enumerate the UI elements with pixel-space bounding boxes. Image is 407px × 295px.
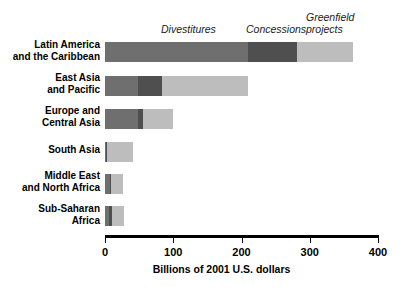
x-axis-title: Billions of 2001 U.S. dollars (0, 263, 407, 275)
bar-row (0, 174, 407, 194)
bar-segment-greenfield (107, 142, 133, 162)
x-tick-label: 100 (164, 246, 182, 258)
bar-segment-divestitures (105, 42, 248, 62)
x-tick-mark (310, 235, 311, 243)
x-tick-label: 300 (301, 246, 319, 258)
bar-row (0, 76, 407, 96)
bar-row (0, 142, 407, 162)
x-tick-label: 0 (102, 246, 108, 258)
x-tick-mark (105, 235, 106, 243)
x-tick-mark (242, 235, 243, 243)
bar-segment-greenfield (297, 42, 352, 62)
bar-segment-divestitures (105, 109, 138, 129)
bar-row (0, 206, 407, 226)
x-tick-mark (378, 235, 379, 243)
bar-segment-greenfield (143, 109, 174, 129)
bar-row (0, 109, 407, 129)
bar-segment-concessions (138, 76, 162, 96)
bar-row (0, 42, 407, 62)
plot-area: Latin America and the Caribbean East Asi… (0, 0, 407, 240)
bar-segment-concessions (248, 42, 297, 62)
x-tick-label: 200 (232, 246, 250, 258)
bar-segment-greenfield (111, 174, 123, 194)
x-tick-mark (173, 235, 174, 243)
bar-segment-greenfield (112, 206, 124, 226)
bar-segment-greenfield (162, 76, 248, 96)
chart-container: Divestitures Concessions Greenfield proj… (0, 0, 407, 295)
bar-segment-divestitures (105, 76, 138, 96)
x-tick-label: 400 (369, 246, 387, 258)
